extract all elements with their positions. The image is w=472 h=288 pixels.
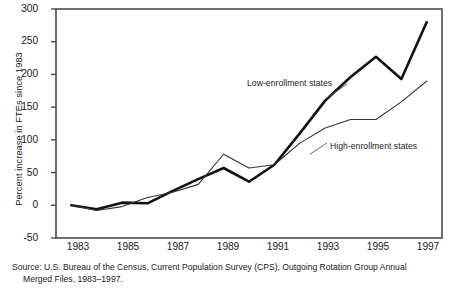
data-series-layer (71, 22, 427, 210)
source-line-2: Merged Files, 1983–1997. (12, 274, 460, 286)
source-note: Source: U.S. Bureau of the Census, Curre… (12, 262, 460, 285)
annotation-leader-line (310, 143, 327, 154)
series-line (71, 22, 427, 209)
source-line-1: Source: U.S. Bureau of the Census, Curre… (12, 262, 407, 272)
series-annotation-high-enrollment: High-enrollment states (330, 141, 417, 151)
chart-figure: Percent increase in FTEs since 1983 300 … (0, 0, 472, 288)
series-annotation-low-enrollment: Low-enrollment states (247, 78, 332, 88)
